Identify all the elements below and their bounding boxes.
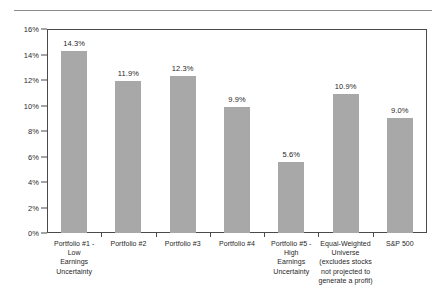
y-tick-label: 0% [28, 229, 39, 238]
x-axis-category-label: Portfolio #2 [97, 239, 159, 248]
x-tick-mark [318, 233, 319, 237]
bar[interactable] [333, 94, 359, 233]
bar-value-label: 11.9% [118, 69, 139, 78]
y-tick-label: 10% [24, 101, 39, 110]
y-tick-label: 12% [24, 76, 39, 85]
x-axis-category-label: S&P 500 [369, 239, 431, 248]
bar[interactable] [61, 51, 87, 233]
y-tick-label: 16% [24, 25, 39, 34]
y-tick-label: 4% [28, 178, 39, 187]
bar-group[interactable]: 11.9% [101, 29, 155, 233]
bar-group[interactable]: 9.9% [210, 29, 264, 233]
bar[interactable] [278, 162, 304, 233]
x-tick-mark [264, 233, 265, 237]
y-axis: 0%2%4%6%8%10%12%14%16% [0, 29, 44, 233]
bar[interactable] [224, 107, 250, 233]
bar[interactable] [115, 81, 141, 233]
bar-group[interactable]: 14.3% [47, 29, 101, 233]
y-tick-label: 14% [24, 50, 39, 59]
bar-group[interactable]: 12.3% [156, 29, 210, 233]
bars-layer: 14.3%11.9%12.3%9.9%5.6%10.9%9.0% [47, 29, 427, 233]
x-axis-labels: Portfolio #1 -LowEarningsUncertaintyPort… [47, 239, 427, 297]
bar[interactable] [170, 76, 196, 233]
bar-group[interactable]: 5.6% [264, 29, 318, 233]
bar-group[interactable]: 9.0% [373, 29, 427, 233]
bar-value-label: 9.9% [228, 95, 246, 104]
bar[interactable] [387, 118, 413, 233]
x-tick-mark [373, 233, 374, 237]
bar-value-label: 9.0% [391, 106, 409, 115]
bar-group[interactable]: 10.9% [318, 29, 372, 233]
bar-value-label: 10.9% [335, 82, 357, 91]
bar-chart: 0%2%4%6%8%10%12%14%16% 14.3%11.9%12.3%9.… [0, 0, 446, 297]
y-tick-label: 6% [28, 152, 39, 161]
x-axis-category-label: Portfolio #1 -LowEarningsUncertainty [43, 239, 105, 276]
bar-value-label: 12.3% [172, 64, 194, 73]
x-axis-ticks [47, 233, 427, 237]
x-tick-mark [101, 233, 102, 237]
x-axis-category-label: Portfolio #4 [206, 239, 268, 248]
x-axis-category-label: Portfolio #3 [152, 239, 214, 248]
x-tick-mark [156, 233, 157, 237]
y-tick-label: 8% [28, 127, 39, 136]
header-divider [14, 10, 432, 11]
y-tick-label: 2% [28, 203, 39, 212]
bar-value-label: 14.3% [63, 39, 85, 48]
x-axis-category-label: Portfolio #5 -HighEarningsUncertainty [260, 239, 322, 276]
x-axis-category-label: Equal-WeightedUniverse(excludes stocksno… [314, 239, 376, 285]
x-tick-mark [210, 233, 211, 237]
bar-value-label: 5.6% [283, 150, 301, 159]
